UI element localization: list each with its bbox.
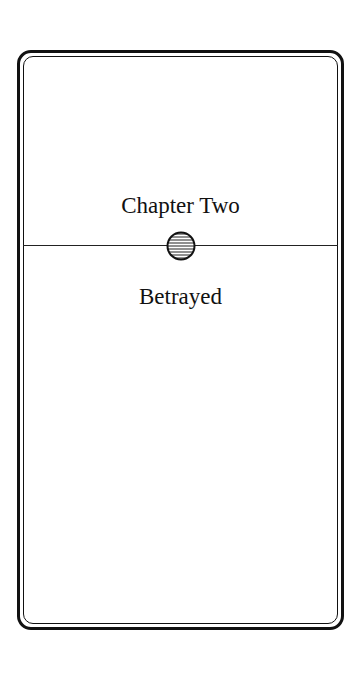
card-inner-border <box>23 56 338 624</box>
chapter-label: Chapter Two <box>0 192 361 220</box>
chapter-title: Betrayed <box>0 283 361 311</box>
striped-circle-icon <box>166 231 196 261</box>
